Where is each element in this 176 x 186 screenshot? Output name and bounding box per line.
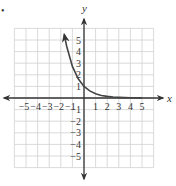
svg-text:1: 1: [93, 101, 98, 112]
svg-text:−1: −1: [70, 104, 81, 115]
svg-text:4: 4: [76, 46, 81, 57]
coordinate-graph: −5−4−3−2−11234554321−1−2−3−4−5 x y: [0, 0, 176, 186]
svg-text:−3: −3: [42, 101, 53, 112]
svg-text:−3: −3: [70, 127, 81, 138]
axes: [4, 19, 163, 179]
svg-text:5: 5: [76, 35, 81, 46]
svg-text:−5: −5: [19, 101, 30, 112]
svg-text:−2: −2: [70, 116, 81, 127]
x-axis-label: x: [166, 92, 172, 104]
svg-text:2: 2: [105, 101, 110, 112]
y-axis-label: y: [81, 2, 87, 14]
svg-text:−5: −5: [70, 151, 81, 162]
svg-text:3: 3: [76, 58, 81, 69]
svg-text:−2: −2: [53, 101, 64, 112]
svg-text:−4: −4: [30, 101, 41, 112]
svg-text:−4: −4: [70, 139, 81, 150]
svg-text:5: 5: [140, 101, 145, 112]
svg-text:3: 3: [116, 101, 121, 112]
svg-text:4: 4: [128, 101, 133, 112]
